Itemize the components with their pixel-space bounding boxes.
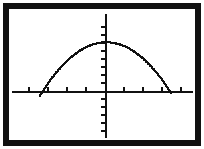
y-axis-tick [101, 98, 105, 100]
y-axis-tick [101, 114, 105, 116]
graph-svg [0, 0, 204, 149]
y-axis [101, 14, 107, 138]
x-axis-tick [47, 87, 49, 91]
x-axis-tick [180, 87, 182, 91]
x-axis [12, 87, 193, 93]
curve-point [170, 92, 172, 94]
x-axis-line [12, 91, 193, 93]
graph-plot-area [0, 0, 204, 149]
y-axis-tick [101, 106, 105, 108]
y-axis-tick [101, 50, 105, 52]
y-axis-line [105, 14, 107, 138]
x-axis-tick [142, 87, 144, 91]
y-axis-tick [101, 58, 105, 60]
y-axis-tick [101, 74, 105, 76]
calculator-screenshot [0, 0, 204, 149]
x-axis-tick [28, 87, 30, 91]
y-axis-tick [101, 34, 105, 36]
y-axis-tick [101, 66, 105, 68]
y-axis-tick [101, 26, 105, 28]
x-axis-tick [123, 87, 125, 91]
y-axis-tick [101, 82, 105, 84]
y-axis-tick [101, 122, 105, 124]
y-axis-tick [101, 130, 105, 132]
x-axis-tick [161, 87, 163, 91]
x-axis-tick [85, 87, 87, 91]
x-axis-tick [66, 87, 68, 91]
